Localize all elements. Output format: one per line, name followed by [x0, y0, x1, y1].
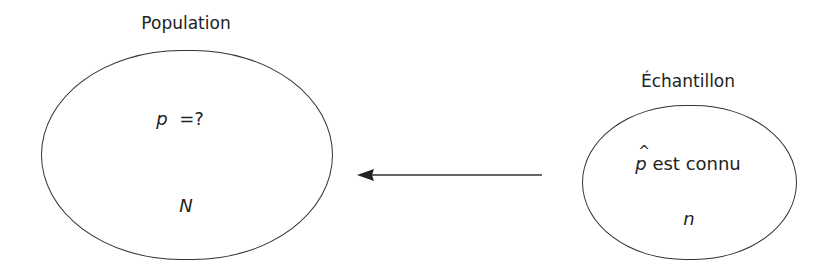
sample-title: Échantillon — [641, 71, 735, 91]
sample-size: n — [683, 208, 694, 229]
estimator-symbol: p — [635, 153, 646, 174]
sample-ellipse — [582, 105, 797, 260]
sample-estimator: p est connu — [635, 153, 741, 174]
estimator-text: est connu — [652, 153, 740, 174]
arrowhead-icon — [357, 169, 374, 181]
